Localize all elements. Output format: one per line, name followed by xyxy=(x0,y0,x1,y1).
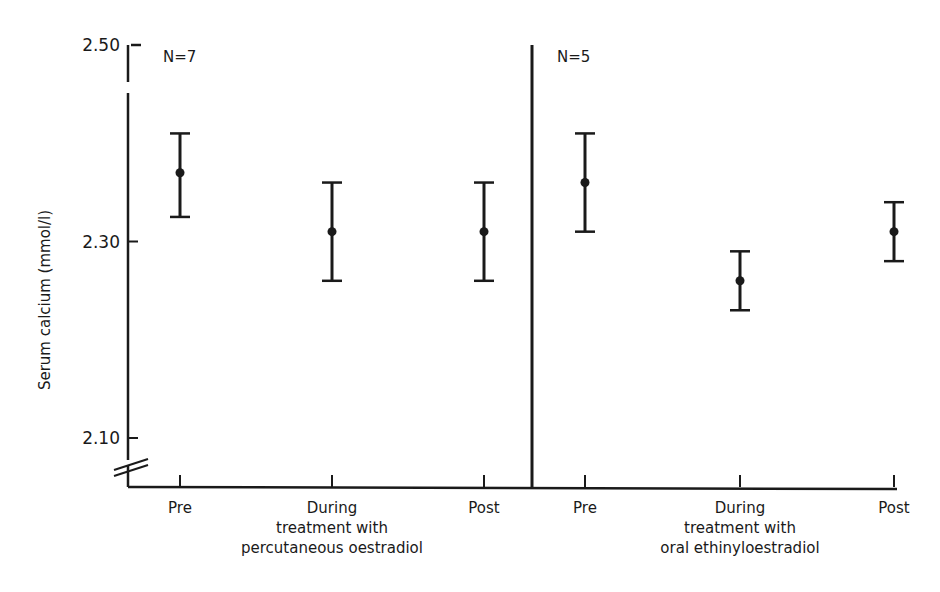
x-category-label: percutaneous oestradiol xyxy=(241,539,423,557)
mean-point xyxy=(480,227,489,236)
mean-point xyxy=(736,276,745,285)
n-label: N=5 xyxy=(557,48,590,66)
panel-1: N=7PreDuringtreatment withpercutaneous o… xyxy=(163,48,500,557)
x-category-label: During xyxy=(307,499,357,517)
error-bar xyxy=(474,183,494,281)
y-axis-label: Serum calcium (mmol/l) xyxy=(36,210,54,390)
panel-2: N=5PreDuringtreatment withoral ethinyloe… xyxy=(557,48,910,557)
error-bar xyxy=(884,202,904,261)
x-axis-line xyxy=(128,487,897,489)
axis-break-mark xyxy=(114,459,148,470)
x-category-label: oral ethinyloestradiol xyxy=(660,539,819,557)
mean-point xyxy=(890,227,899,236)
x-category-label: Post xyxy=(878,499,910,517)
error-bar xyxy=(730,251,750,310)
x-category-label: treatment with xyxy=(276,519,388,537)
serum-calcium-chart: 2.102.302.50 N=7PreDuringtreatment withp… xyxy=(0,0,940,592)
x-category-label: Pre xyxy=(573,499,597,517)
panels: N=7PreDuringtreatment withpercutaneous o… xyxy=(163,48,910,557)
axis-break-mark xyxy=(114,465,148,476)
n-label: N=7 xyxy=(163,48,196,66)
x-category-label: Pre xyxy=(168,499,192,517)
y-tick-label: 2.50 xyxy=(82,35,120,55)
x-category-label: During xyxy=(715,499,765,517)
error-bar xyxy=(322,183,342,281)
x-category-label: Post xyxy=(468,499,500,517)
x-category-label: treatment with xyxy=(684,519,796,537)
mean-point xyxy=(581,178,590,187)
y-tick-label: 2.10 xyxy=(82,428,120,448)
error-bar xyxy=(170,133,190,217)
mean-point xyxy=(176,168,185,177)
axes: 2.102.302.50 xyxy=(82,35,897,489)
y-tick-label: 2.30 xyxy=(82,232,120,252)
mean-point xyxy=(328,227,337,236)
error-bar xyxy=(575,133,595,231)
